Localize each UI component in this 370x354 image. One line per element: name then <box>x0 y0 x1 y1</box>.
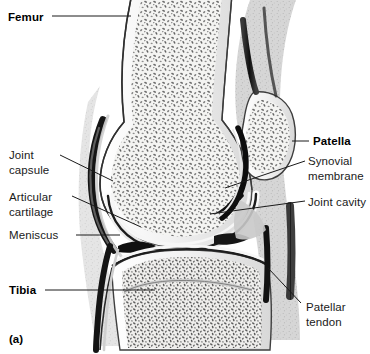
label-meniscus: Meniscus <box>9 228 58 243</box>
label-joint-cavity: Joint cavity <box>308 195 366 210</box>
patella-structure <box>241 92 295 180</box>
tibia-structure <box>100 246 271 350</box>
label-patellar-tendon: Patellar tendon <box>306 300 346 330</box>
label-patella: Patella <box>313 134 351 149</box>
figure-caption: (a) <box>9 333 23 345</box>
label-femur: Femur <box>8 10 44 25</box>
label-joint-capsule: Joint capsule <box>9 148 49 178</box>
knee-joint-figure: Femur Joint capsule Articular cartilage … <box>0 0 370 354</box>
label-tibia: Tibia <box>9 283 36 298</box>
label-articular-cartilage: Articular cartilage <box>9 190 53 220</box>
label-synovial-membrane: Synovial membrane <box>308 154 364 184</box>
